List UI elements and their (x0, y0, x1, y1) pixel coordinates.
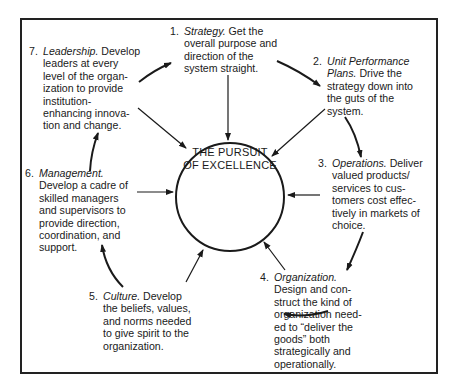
item-number: 2. (313, 55, 322, 67)
item-text: services to cus- (332, 182, 423, 194)
item-text: system straight. (184, 62, 277, 74)
item-text: tomers cost effec- (332, 194, 423, 206)
item-title: Unit Performance (327, 55, 413, 67)
item-text: tion and change. (43, 119, 140, 131)
item-text: enhancing innova- (43, 107, 140, 119)
item-culture: 5. Culture. Develop the beliefs, values,… (89, 290, 191, 352)
item-title: Organization. (274, 271, 362, 283)
item-text: to give spirit to the (103, 327, 191, 339)
item-text: provide direction, (39, 217, 128, 229)
item-text: support. (39, 241, 128, 253)
item-text: strategically and (274, 345, 362, 357)
item-title: Strategy. (184, 25, 226, 37)
item-title-cont: Plans. (327, 67, 356, 79)
item-text: Develop (140, 290, 182, 302)
item-text: organization. (103, 340, 191, 352)
item-number: 6. (25, 167, 34, 179)
item-text: coordination, and (39, 229, 128, 241)
item-title: Management. (39, 167, 128, 179)
item-text: struct the kind of (274, 296, 362, 308)
item-number: 5. (89, 290, 98, 302)
item-text: valued products/ (332, 169, 423, 181)
item-text: institution- (43, 95, 140, 107)
item-number: 4. (260, 271, 269, 283)
item-text: Get the (226, 25, 264, 37)
cycle-2-to-3-arrow (345, 117, 361, 157)
item-number: 3. (318, 157, 327, 169)
item-text: goods” both (274, 333, 362, 345)
item-text: and norms needed (103, 315, 191, 327)
item-number: 1. (170, 25, 179, 37)
item-text: overall purpose and (184, 37, 277, 49)
item-text: operationally. (274, 358, 362, 370)
item-text: Deliver (387, 157, 423, 169)
center-label-line-2: OF EXCELLENCE (168, 159, 292, 172)
spoke-4-arrow (264, 242, 285, 270)
cycle-3-to-4-arrow (347, 232, 363, 270)
item-leadership: 7. Leadership. Develop leaders at every … (29, 45, 140, 132)
item-operations: 3. Operations. Deliver valued products/ … (318, 157, 423, 231)
item-strategy: 1. Strategy. Get the overall purpose and… (170, 25, 277, 75)
item-text: Drive the (356, 67, 401, 79)
center-label: THE PURSUIT OF EXCELLENCE (168, 146, 292, 172)
cycle-6-to-7-arrow (90, 133, 98, 171)
item-text: Develop a cadre of (39, 179, 128, 191)
item-text: Develop (98, 45, 140, 57)
item-text: the beliefs, values, (103, 302, 191, 314)
item-text: strategy down into (327, 80, 413, 92)
item-title: Culture. (103, 290, 140, 302)
spoke-5-arrow (186, 250, 203, 282)
item-unit-performance-plans: 2. Unit Performance Plans. Drive the str… (313, 55, 413, 117)
item-text: ization to provide (43, 82, 140, 94)
item-text: leaders at every (43, 57, 140, 69)
item-title: Leadership. (43, 45, 98, 57)
item-title: Operations. (332, 157, 387, 169)
item-text: ed to “deliver the (274, 321, 362, 333)
item-text: and supervisors to (39, 204, 128, 216)
item-text: Design and con- (274, 283, 362, 295)
item-number: 7. (29, 45, 38, 57)
item-management: 6. Management. Develop a cadre of skille… (25, 167, 128, 254)
spoke-7-arrow (138, 108, 186, 148)
item-text: skilled managers (39, 192, 128, 204)
item-text: level of the organ- (43, 70, 140, 82)
item-text: the guts of the (327, 92, 413, 104)
item-text: tively in markets of (332, 207, 423, 219)
item-text: system. (327, 105, 413, 117)
cycle-7-to-1-arrow (139, 63, 171, 82)
item-text: choice. (332, 219, 423, 231)
center-label-line-1: THE PURSUIT (168, 146, 292, 159)
item-text: organization need- (274, 308, 362, 320)
item-organization: 4. Organization. Design and con- struct … (260, 271, 362, 370)
item-text: direction of the (184, 50, 277, 62)
